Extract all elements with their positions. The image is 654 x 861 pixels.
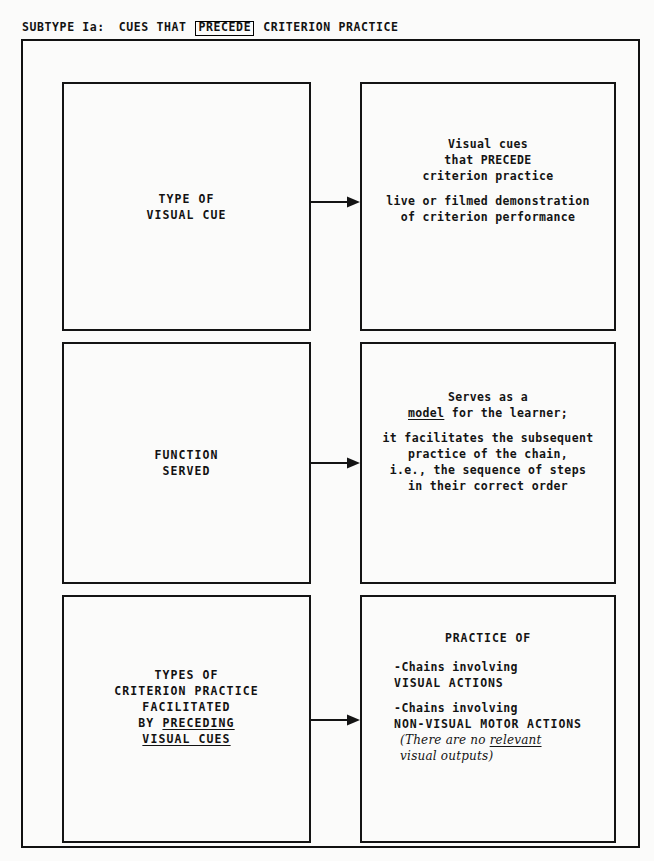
title-part-two: CRITERION PRACTICE: [263, 20, 398, 34]
detail-line: i.e., the sequence of steps: [368, 462, 608, 478]
detail-line: that PRECEDE: [368, 152, 608, 168]
box-function-served-detail: Serves as a model for the learner; it fa…: [360, 342, 616, 584]
box-label-line: FUNCTION: [70, 447, 303, 463]
title-part-one: CUES THAT: [119, 20, 187, 34]
arrow-type-of-visual-cue: [311, 195, 360, 209]
diagram-page: SUBTYPE Ia: CUES THAT PRECEDE CRITERION …: [0, 0, 654, 861]
box-label-line-visual-cues: VISUAL CUES: [70, 731, 303, 747]
page-title: SUBTYPE Ia: CUES THAT PRECEDE CRITERION …: [22, 20, 399, 36]
box-function-served: FUNCTION SERVED: [62, 342, 311, 584]
underlined-word: model: [408, 406, 444, 420]
bullet-item-line: NON-VISUAL MOTOR ACTIONS: [394, 716, 582, 732]
detail-line: Serves as a: [368, 389, 608, 405]
arrow-types-of-criterion-practice: [311, 713, 360, 727]
bullet-item-line: VISUAL ACTIONS: [394, 675, 582, 691]
box-practice-of-detail: PRACTICE OF -Chains involving VISUAL ACT…: [360, 595, 616, 843]
detail-title: PRACTICE OF: [368, 630, 608, 646]
note-prefix: (There are no: [400, 733, 490, 747]
box-label-line: VISUAL CUE: [70, 207, 303, 223]
detail-line: it facilitates the subsequent: [368, 430, 608, 446]
arrow-function-served: [311, 456, 360, 470]
title-subtype-prefix: SUBTYPE Ia:: [22, 20, 105, 34]
underlined-word: relevant: [490, 733, 542, 747]
detail-line: practice of the chain,: [368, 446, 608, 462]
detail-line: live or filmed demonstration: [368, 193, 608, 209]
detail-line-with-underline: model for the learner;: [368, 405, 608, 421]
detail-line: of criterion performance: [368, 209, 608, 225]
bullet-item-line: -Chains involving: [394, 659, 582, 675]
detail-line: criterion practice: [368, 168, 608, 184]
detail-line: in their correct order: [368, 478, 608, 494]
underlined-word: VISUAL CUES: [142, 732, 230, 746]
bullet-group: -Chains involving VISUAL ACTIONS -Chains…: [394, 659, 582, 764]
box-label-line: TYPE OF: [70, 191, 303, 207]
box-types-of-criterion-practice: TYPES OF CRITERION PRACTICE FACILITATED …: [62, 595, 311, 843]
box-label-line: FACILITATED: [70, 699, 303, 715]
underlined-word: PRECEDING: [162, 716, 234, 730]
detail-line: Visual cues: [368, 136, 608, 152]
note-line-one: (There are no relevant: [394, 732, 582, 748]
box-label-line-preceding: BY PRECEDING: [70, 715, 303, 731]
detail-line-rest: for the learner;: [444, 406, 568, 420]
box-label-line: CRITERION PRACTICE: [70, 683, 303, 699]
note-line-two: visual outputs): [394, 748, 582, 764]
box-visual-cues-detail: Visual cues that PRECEDE criterion pract…: [360, 82, 616, 331]
box-label-line: TYPES OF: [70, 667, 303, 683]
label-prefix: BY: [138, 716, 162, 730]
bullet-item-line: -Chains involving: [394, 700, 582, 716]
box-type-of-visual-cue: TYPE OF VISUAL CUE: [62, 82, 311, 331]
title-boxed-keyword: PRECEDE: [195, 21, 254, 36]
box-label-line: SERVED: [70, 463, 303, 479]
